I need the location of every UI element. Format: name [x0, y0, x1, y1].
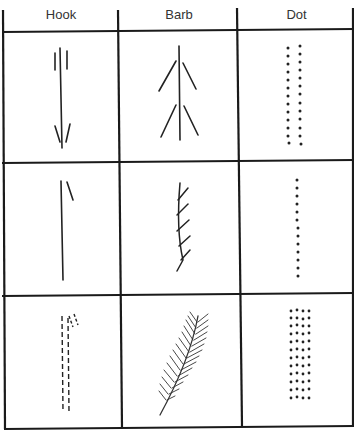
symbol-table: Hook Barb Dot [0, 0, 354, 437]
dot-double-column-icon [287, 45, 303, 146]
barb-simple-icon [159, 46, 198, 140]
barb-feathered-icon [159, 312, 208, 415]
barb-curved-icon [177, 183, 190, 271]
hook-single-icon [61, 181, 73, 280]
dot-single-column-icon [296, 179, 300, 278]
table-grid [0, 0, 354, 437]
hook-dashed-icon [62, 314, 78, 412]
dot-dense-block-icon [290, 309, 311, 400]
hook-simple-icon [55, 48, 70, 148]
